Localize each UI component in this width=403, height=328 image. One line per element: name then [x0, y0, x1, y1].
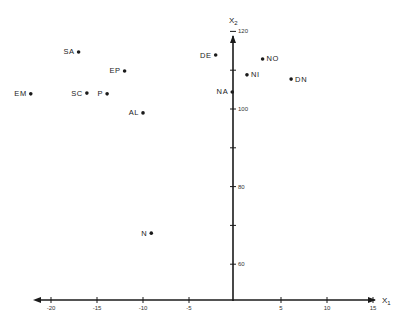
x-tick-label: -5 [186, 305, 192, 311]
point-label: EP [109, 66, 120, 75]
y-tick-label: 60 [238, 261, 245, 267]
point-label: AL [129, 108, 139, 117]
data-point-al: AL [129, 108, 145, 117]
point-label: NI [251, 70, 260, 79]
point-marker-icon [141, 111, 145, 115]
data-points: SAEPEMSCPALDENANONIDNN [14, 47, 307, 237]
data-point-p: P [98, 89, 109, 98]
point-marker-icon [149, 231, 153, 235]
data-point-n: N [141, 229, 153, 238]
data-point-no: NO [261, 54, 279, 63]
point-label: NO [267, 54, 279, 63]
x-axis-left-arrow-icon [33, 297, 41, 303]
point-label: NA [217, 87, 229, 96]
y-axis: 6080100120 X2 [229, 16, 249, 301]
point-marker-icon [77, 50, 81, 54]
point-marker-icon [85, 91, 89, 95]
data-point-ni: NI [245, 70, 260, 79]
point-label: SA [63, 47, 74, 56]
x-axis: -20-15-10-551015 X1 [33, 296, 391, 311]
point-label: EM [14, 89, 26, 98]
y-tick-label: 100 [238, 106, 249, 112]
y-tick-label: 120 [238, 28, 249, 34]
data-point-dn: DN [289, 75, 307, 84]
point-label: DE [200, 51, 212, 60]
point-marker-icon [29, 92, 33, 96]
x-tick-label: 10 [324, 305, 331, 311]
point-marker-icon [245, 73, 249, 77]
x-tick-label: -20 [47, 305, 56, 311]
x-tick-label: -10 [139, 305, 148, 311]
data-point-de: DE [200, 51, 217, 60]
x-tick-label: 5 [279, 305, 283, 311]
data-point-ep: EP [109, 66, 126, 75]
point-marker-icon [230, 90, 234, 94]
data-point-sc: SC [71, 89, 88, 98]
data-point-em: EM [14, 89, 32, 98]
point-label: SC [71, 89, 83, 98]
point-label: N [141, 229, 147, 238]
point-marker-icon [261, 57, 265, 61]
y-tick-label: 80 [238, 184, 245, 190]
point-marker-icon [289, 77, 293, 81]
point-label: DN [295, 75, 307, 84]
x-tick-label: 15 [370, 305, 377, 311]
point-label: P [98, 89, 104, 98]
scatter-chart: -20-15-10-551015 X1 6080100120 X2 SAEPEM… [0, 0, 403, 328]
data-point-na: NA [217, 87, 234, 96]
x-axis-label: X1 [382, 296, 391, 306]
x-ticks: -20-15-10-551015 [47, 297, 377, 311]
point-marker-icon [214, 53, 218, 57]
point-marker-icon [123, 69, 127, 73]
x-tick-label: -15 [93, 305, 102, 311]
data-point-sa: SA [63, 47, 80, 56]
point-marker-icon [105, 92, 109, 96]
y-axis-label: X2 [229, 16, 238, 26]
